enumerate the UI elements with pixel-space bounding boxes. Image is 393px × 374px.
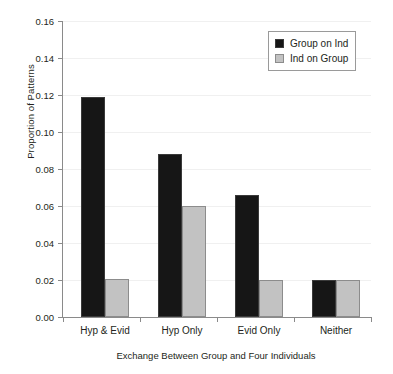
bar-hyp-evid-ind-on-group [105,279,129,317]
bar-hyp-evid-group-on-ind [81,97,105,317]
x-tick-mark [217,317,218,322]
y-gridline [63,132,371,133]
bar-hyp-only-group-on-ind [158,154,182,317]
y-tick-mark [58,280,63,281]
legend-item: Group on Ind [275,36,348,51]
x-tick-label: Neither [320,325,352,336]
y-tick-label: 0.12 [36,90,55,101]
y-axis-title: Proportion of Patterns [25,22,36,202]
y-tick-mark [58,21,63,22]
y-gridline [63,95,371,96]
y-gridline [63,21,371,22]
legend-swatch-icon [275,54,284,63]
x-tick-mark [140,317,141,322]
x-tick-mark [63,317,64,322]
x-tick-label: Hyp & Evid [80,325,129,336]
legend-swatch-icon [275,39,284,48]
y-tick-label: 0.04 [36,238,55,249]
y-tick-label: 0.10 [36,127,55,138]
y-tick-label: 0.00 [36,312,55,323]
y-tick-mark [58,169,63,170]
y-tick-mark [58,132,63,133]
bar-evid-only-group-on-ind [235,195,259,317]
y-tick-label: 0.08 [36,164,55,175]
legend-label: Group on Ind [290,38,348,49]
x-axis-title: Exchange Between Group and Four Individu… [62,350,370,361]
x-tick-label: Hyp Only [161,325,202,336]
bar-evid-only-ind-on-group [259,280,283,317]
y-tick-mark [58,58,63,59]
y-tick-mark [58,95,63,96]
y-gridline [63,243,371,244]
x-tick-mark [294,317,295,322]
bar-hyp-only-ind-on-group [182,206,206,317]
y-tick-label: 0.02 [36,275,55,286]
bar-chart: Proportion of Patterns 0.160.140.120.100… [0,0,393,374]
bar-neither-ind-on-group [336,280,360,317]
y-tick-mark [58,243,63,244]
y-tick-label: 0.06 [36,201,55,212]
x-tick-mark [371,317,372,322]
x-tick-label: Evid Only [238,325,281,336]
bar-neither-group-on-ind [312,280,336,317]
y-tick-label: 0.14 [36,53,55,64]
y-gridline [63,206,371,207]
y-tick-mark [58,206,63,207]
legend-item: Ind on Group [275,51,348,66]
y-gridline [63,169,371,170]
chart-legend: Group on IndInd on Group [268,31,356,71]
legend-label: Ind on Group [290,53,348,64]
y-tick-label: 0.16 [36,16,55,27]
